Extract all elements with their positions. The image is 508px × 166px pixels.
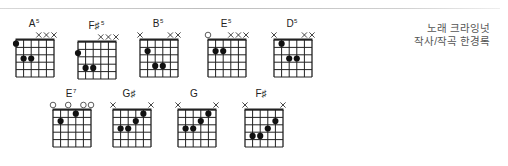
singer-credit: 노래 크라잉넛 bbox=[414, 22, 490, 35]
chord-grid: F♯ bbox=[245, 88, 315, 158]
nut bbox=[78, 41, 117, 43]
open-string-icon bbox=[88, 102, 94, 108]
muted-string-icon bbox=[213, 102, 218, 107]
open-string-icon bbox=[81, 102, 87, 108]
muted-string-icon bbox=[243, 32, 248, 37]
nut bbox=[178, 109, 217, 111]
finger-dot bbox=[213, 48, 219, 54]
muted-string-icon bbox=[44, 32, 49, 37]
chord-grid: G bbox=[178, 88, 248, 158]
muted-string-icon bbox=[280, 102, 285, 107]
finger-dot bbox=[286, 55, 292, 61]
chord-name: F♯ bbox=[255, 88, 266, 99]
muted-string-icon bbox=[309, 32, 314, 37]
chord-diagram: D5 bbox=[274, 18, 334, 88]
finger-dot bbox=[250, 133, 256, 139]
chord-superscript: 5 bbox=[101, 20, 105, 26]
open-string-icon bbox=[50, 102, 56, 108]
chord-superscript: 5 bbox=[160, 18, 164, 24]
muted-string-icon bbox=[148, 102, 153, 107]
finger-dot bbox=[13, 41, 19, 47]
chord-diagram: E5 bbox=[208, 18, 268, 88]
nut bbox=[16, 39, 55, 41]
nut bbox=[245, 109, 284, 111]
open-string-icon bbox=[65, 102, 71, 108]
nut bbox=[208, 39, 247, 41]
finger-dot bbox=[205, 111, 211, 117]
finger-dot bbox=[90, 65, 96, 71]
finger-dot bbox=[28, 55, 34, 61]
muted-string-icon bbox=[98, 34, 103, 39]
muted-string-icon bbox=[113, 34, 118, 39]
chord-superscript: 5 bbox=[36, 18, 40, 24]
muted-string-icon bbox=[168, 32, 173, 37]
finger-dot bbox=[73, 111, 79, 117]
chord-superscript: 7 bbox=[73, 88, 77, 94]
chord-name: B bbox=[153, 18, 160, 29]
muted-string-icon bbox=[36, 32, 41, 37]
finger-dot bbox=[75, 50, 81, 56]
finger-dot bbox=[133, 118, 139, 124]
finger-dot bbox=[140, 111, 146, 117]
chord-name: F♯ bbox=[88, 20, 99, 31]
chord-diagram: B5 bbox=[140, 18, 200, 88]
chord-diagram: G♯ bbox=[113, 88, 173, 158]
chord-diagram: A5 bbox=[16, 18, 76, 88]
chord-name: A bbox=[29, 18, 36, 29]
muted-string-icon bbox=[106, 34, 111, 39]
chord-name: E bbox=[221, 18, 228, 29]
finger-dot bbox=[160, 63, 166, 69]
chord-grid: F♯5 bbox=[78, 20, 148, 90]
chord-grid: G♯ bbox=[113, 88, 183, 158]
finger-dot bbox=[279, 41, 285, 47]
chord-name: E bbox=[66, 88, 73, 99]
chord-grid: E5 bbox=[208, 18, 278, 88]
finger-dot bbox=[152, 63, 158, 69]
muted-string-icon bbox=[175, 32, 180, 37]
chord-diagram: F♯ bbox=[245, 88, 305, 158]
finger-dot bbox=[198, 118, 204, 124]
nut bbox=[274, 39, 313, 41]
header-divider bbox=[0, 8, 500, 9]
chord-name: D bbox=[286, 18, 293, 29]
nut bbox=[53, 109, 92, 111]
finger-dot bbox=[294, 55, 300, 61]
muted-string-icon bbox=[228, 32, 233, 37]
finger-dot bbox=[220, 48, 226, 54]
muted-string-icon bbox=[236, 32, 241, 37]
finger-dot bbox=[265, 125, 271, 131]
finger-dot bbox=[257, 133, 263, 139]
writer-credit: 작사/작곡 한경록 bbox=[414, 35, 490, 48]
chord-diagram: E7 bbox=[53, 88, 113, 158]
muted-string-icon bbox=[302, 32, 307, 37]
finger-dot bbox=[145, 48, 151, 54]
chord-diagram: G bbox=[178, 88, 238, 158]
chord-superscript: 5 bbox=[294, 18, 298, 24]
chord-name: G♯ bbox=[123, 88, 136, 99]
finger-dot bbox=[125, 125, 131, 131]
chord-grid: B5 bbox=[140, 18, 210, 88]
song-credits: 노래 크라잉넛 작사/작곡 한경록 bbox=[414, 22, 490, 48]
finger-dot bbox=[183, 125, 189, 131]
nut bbox=[140, 39, 179, 41]
finger-dot bbox=[83, 65, 89, 71]
finger-dot bbox=[272, 118, 278, 124]
chord-diagram: F♯5 bbox=[78, 20, 138, 90]
finger-dot bbox=[58, 118, 64, 124]
chord-superscript: 5 bbox=[228, 18, 232, 24]
muted-string-icon bbox=[51, 32, 56, 37]
chord-grid: D5 bbox=[274, 18, 344, 88]
finger-dot bbox=[21, 55, 27, 61]
chord-name: G bbox=[190, 88, 198, 99]
finger-dot bbox=[190, 125, 196, 131]
nut bbox=[113, 109, 152, 111]
finger-dot bbox=[118, 125, 124, 131]
